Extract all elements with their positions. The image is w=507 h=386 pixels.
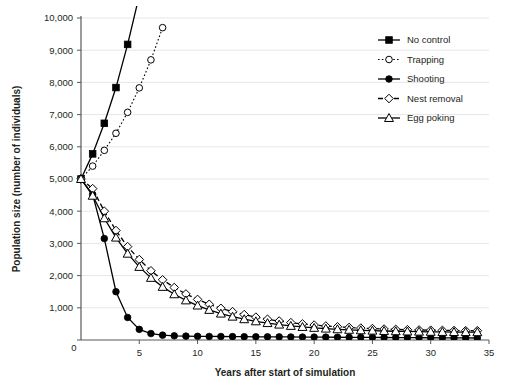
marker-filled-circle [346, 334, 353, 341]
legend-label: No control [407, 34, 450, 45]
series-no-control [78, 0, 143, 182]
legend-label: Shooting [407, 73, 445, 84]
marker-filled-circle [136, 326, 143, 333]
series-egg-poking [77, 175, 482, 336]
marker-filled-circle [241, 333, 248, 340]
y-tick-label: 10,000 [44, 12, 73, 23]
marker-open-circle [136, 85, 143, 92]
y-tick-label: 5,000 [49, 173, 73, 184]
legend-label: Nest removal [407, 93, 463, 104]
x-tick-label: 5 [137, 347, 142, 358]
legend: No controlTrappingShootingNest removalEg… [378, 34, 463, 123]
marker-filled-circle [159, 332, 166, 339]
marker-open-circle [89, 163, 96, 170]
marker-filled-circle [194, 333, 201, 340]
y-tick-label: 3,000 [49, 238, 73, 249]
marker-filled-circle [148, 330, 155, 337]
marker-filled-circle [101, 235, 108, 242]
legend-item-egg-poking[interactable]: Egg poking [378, 112, 455, 123]
legend-label: Egg poking [407, 112, 455, 123]
marker-filled-circle [381, 334, 388, 341]
legend-item-nest-removal[interactable]: Nest removal [378, 93, 463, 104]
y-axis-title: Population size (number of individuals) [11, 86, 22, 273]
series-nest-removal [77, 175, 482, 335]
marker-filled-circle [323, 334, 330, 341]
marker-filled-circle [171, 333, 178, 340]
marker-filled-circle [311, 334, 318, 341]
marker-open-circle [124, 109, 131, 116]
marker-filled-square [89, 151, 96, 158]
marker-open-circle [113, 130, 120, 137]
chart-canvas: 01,0002,0003,0004,0005,0006,0007,0008,00… [0, 0, 507, 386]
y-tick-label: 9,000 [49, 45, 73, 56]
marker-open-triangle [193, 301, 202, 309]
series-line [81, 179, 477, 332]
marker-filled-circle [183, 333, 190, 340]
x-tick-label: 15 [251, 347, 262, 358]
marker-filled-circle [264, 334, 271, 341]
marker-filled-circle [113, 288, 120, 295]
marker-filled-circle [369, 334, 376, 341]
legend-item-trapping[interactable]: Trapping [378, 54, 444, 65]
marker-open-circle [101, 147, 108, 154]
marker-filled-circle [276, 334, 283, 341]
marker-open-triangle [158, 282, 167, 290]
marker-filled-circle [218, 333, 225, 340]
marker-filled-circle [288, 334, 295, 341]
y-tick-label: 6,000 [49, 141, 73, 152]
y-tick-label: 7,000 [49, 109, 73, 120]
marker-filled-square [386, 37, 393, 44]
legend-item-no-control[interactable]: No control [378, 34, 450, 45]
x-tick-label: 10 [192, 347, 203, 358]
marker-filled-circle [299, 334, 306, 341]
marker-filled-circle [357, 334, 364, 341]
y-tick-label: 2,000 [49, 270, 73, 281]
marker-filled-circle [392, 334, 399, 341]
legend-label: Trapping [407, 54, 444, 65]
x-tick-label: 20 [309, 347, 320, 358]
marker-filled-circle [253, 333, 260, 340]
y-tick-label: 1,000 [49, 302, 73, 313]
marker-filled-circle [334, 334, 341, 341]
marker-open-circle [386, 56, 393, 63]
marker-filled-circle [386, 76, 393, 83]
y-tick-label: 8,000 [49, 77, 73, 88]
marker-open-circle [159, 24, 166, 31]
marker-filled-square [101, 120, 108, 127]
marker-open-triangle [170, 290, 179, 298]
marker-open-circle [148, 57, 155, 64]
marker-filled-circle [229, 333, 236, 340]
x-axis-ticks: 5101520253035 [137, 340, 495, 358]
y-tick-label: 0 [71, 342, 76, 353]
x-axis-title: Years after start of simulation [215, 367, 356, 378]
x-tick-label: 30 [425, 347, 436, 358]
marker-filled-square [124, 41, 131, 48]
population-simulation-chart: 01,0002,0003,0004,0005,0006,0007,0008,00… [0, 0, 507, 386]
marker-open-diamond [385, 94, 394, 103]
x-tick-label: 35 [484, 347, 495, 358]
marker-open-triangle [100, 214, 109, 222]
y-tick-label: 4,000 [49, 206, 73, 217]
series-group [77, 0, 482, 341]
marker-filled-square [113, 84, 120, 91]
marker-filled-circle [206, 333, 213, 340]
marker-filled-circle [124, 314, 131, 321]
y-axis-ticks: 01,0002,0003,0004,0005,0006,0007,0008,00… [44, 12, 81, 353]
marker-open-triangle [181, 296, 190, 304]
x-tick-label: 25 [367, 347, 378, 358]
